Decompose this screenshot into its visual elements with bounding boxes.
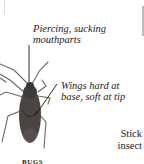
bugs-caption: BUGS xyxy=(22,158,43,164)
mouthparts-annotation-line2: mouthparts xyxy=(33,34,106,45)
stick-insect-line2: insect xyxy=(118,140,143,152)
wings-annotation-line1: Wings hard at xyxy=(61,80,125,91)
wings-annotation-line2: base, soft at tip xyxy=(61,91,125,102)
wings-annotation: Wings hard at base, soft at tip xyxy=(61,80,125,102)
stick-insect-line1: Stick xyxy=(118,128,143,140)
mouthparts-annotation-line1: Piercing, sucking xyxy=(33,23,106,34)
mouthparts-annotation: Piercing, sucking mouthparts xyxy=(33,23,106,45)
stick-insect-label: Stick insect xyxy=(118,128,143,151)
